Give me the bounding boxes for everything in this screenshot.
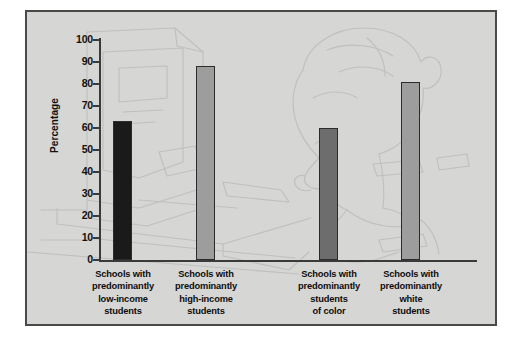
x-category-line: Schools with (158, 268, 254, 280)
x-category-label-white-students: Schools with predominantly white student… (363, 268, 459, 318)
bar-white-students (401, 82, 420, 260)
y-tick-mark-40 (93, 171, 99, 173)
y-tick-mark-0 (93, 259, 99, 261)
chart-figure: Percentage 100 90 80 70 60 50 40 30 20 1… (0, 0, 515, 338)
y-tick-mark-70 (93, 105, 99, 107)
y-tick-label-30: 30 (53, 188, 93, 199)
y-tick-label-60: 60 (53, 122, 93, 133)
y-tick-mark-60 (93, 127, 99, 129)
x-axis-line (99, 260, 477, 262)
x-category-line: predominantly (363, 280, 459, 292)
x-category-label-low-income: Schools with predominantly low-income st… (75, 268, 171, 318)
bar-low-income-students (113, 121, 132, 260)
y-tick-label-40: 40 (53, 166, 93, 177)
y-tick-mark-20 (93, 215, 99, 217)
y-tick-label-100: 100 (53, 34, 93, 45)
x-category-line: predominantly (75, 280, 171, 292)
y-tick-mark-30 (93, 193, 99, 195)
y-tick-mark-90 (93, 61, 99, 63)
chart-plate: Percentage 100 90 80 70 60 50 40 30 20 1… (25, 10, 497, 326)
y-tick-label-10: 10 (53, 232, 93, 243)
x-category-line: white (363, 293, 459, 305)
x-category-line: Schools with (363, 268, 459, 280)
x-category-label-high-income: Schools with predominantly high-income s… (158, 268, 254, 318)
y-tick-mark-50 (93, 149, 99, 151)
y-tick-label-80: 80 (53, 78, 93, 89)
y-tick-mark-10 (93, 237, 99, 239)
bar-students-of-color (319, 128, 338, 260)
y-tick-label-90: 90 (53, 56, 93, 67)
x-category-line: high-income (158, 293, 254, 305)
y-tick-label-70: 70 (53, 100, 93, 111)
bar-high-income-students (196, 66, 215, 260)
y-axis-line (99, 38, 101, 262)
y-tick-mark-80 (93, 83, 99, 85)
y-tick-label-50: 50 (53, 144, 93, 155)
x-category-line: students (75, 305, 171, 317)
y-tick-mark-100 (93, 39, 99, 41)
plot-area: Percentage 100 90 80 70 60 50 40 30 20 1… (27, 12, 495, 324)
y-tick-label-0: 0 (53, 254, 93, 265)
x-category-line: students (363, 305, 459, 317)
x-category-line: students (158, 305, 254, 317)
x-category-line: predominantly (158, 280, 254, 292)
y-tick-label-20: 20 (53, 210, 93, 221)
x-category-line: low-income (75, 293, 171, 305)
x-category-line: Schools with (75, 268, 171, 280)
